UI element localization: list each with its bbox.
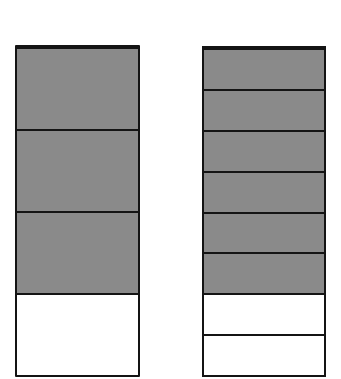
shaded-segment <box>204 171 324 212</box>
shaded-segment <box>204 252 324 293</box>
shaded-segment <box>204 212 324 253</box>
shaded-segment <box>204 130 324 171</box>
shaded-segment <box>204 89 324 130</box>
unshaded-segment <box>204 293 324 334</box>
shaded-segment <box>17 211 138 293</box>
fraction-bar-eighths: 6/8 <box>202 46 326 377</box>
shaded-segment <box>204 48 324 89</box>
shaded-segment <box>17 129 138 211</box>
unshaded-segment <box>204 334 324 375</box>
fraction-bar-fourths: 3/4 <box>15 45 140 377</box>
unshaded-segment <box>17 293 138 375</box>
shaded-segment <box>17 47 138 129</box>
